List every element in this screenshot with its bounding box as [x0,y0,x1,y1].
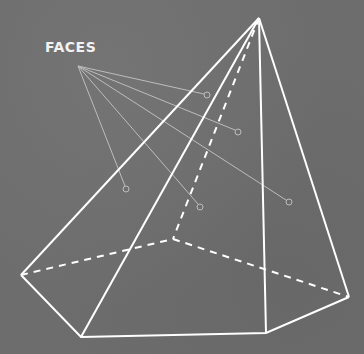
edge-apex-left [21,18,259,275]
visible-edges [21,18,349,337]
hidden-edge-back-right [173,239,349,297]
pyramid-diagram [0,0,364,354]
diagram-board: FACES [0,0,364,354]
pointer-marker-5 [286,199,292,205]
edge-apex-bottom-left [81,18,259,337]
hidden-edge-left-back [21,239,173,275]
hidden-edge-apex-back [173,18,259,239]
pointer-marker-1 [204,92,210,98]
pointer-line-4 [78,66,198,204]
edge-apex-right [259,18,349,297]
edge-apex-bottom-right [259,18,266,333]
hidden-edges [21,18,349,297]
base-front-edges [21,275,349,337]
pointer-line-1 [78,66,204,94]
pointer-line-2 [78,66,235,130]
pointer-line-3 [78,66,125,186]
pointer-marker-2 [235,129,241,135]
pointer-marker-3 [123,186,129,192]
pointer-marker-4 [197,204,203,210]
